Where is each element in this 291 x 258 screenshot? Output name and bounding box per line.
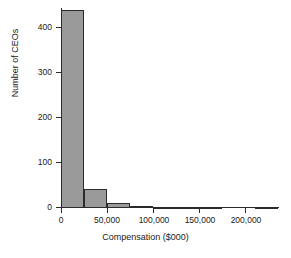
y-axis-title: Number of CEOs: [10, 3, 20, 123]
bar-bin-0: [61, 10, 84, 208]
y-tick-label-200: 200: [26, 113, 52, 122]
x-tick-label-0: 0: [41, 216, 81, 225]
x-tick-200000: [245, 208, 246, 213]
y-tick-label-100: 100: [26, 158, 52, 167]
bar-bin-9: [255, 207, 278, 209]
bar-bin-6: [199, 207, 222, 209]
y-tick-label-0: 0: [26, 203, 52, 212]
x-tick-0: [61, 208, 62, 213]
bar-bin-5: [176, 207, 199, 209]
y-tick-label-400: 400: [26, 23, 52, 32]
x-tick-label-50000: 50,000: [82, 216, 132, 225]
y-tick-label-300: 300: [26, 68, 52, 77]
bar-bin-1: [84, 189, 107, 208]
bar-bin-2: [107, 203, 130, 208]
x-axis-title: Compensation ($000): [0, 232, 291, 242]
bar-bin-3: [130, 206, 153, 208]
plot-area: 400 300 200 100 0 0 50,000 100,000 150,0…: [0, 0, 291, 258]
x-tick-100000: [153, 208, 154, 213]
x-tick-label-200000: 200,000: [218, 216, 274, 225]
x-tick-50000: [107, 208, 108, 213]
x-tick-150000: [199, 208, 200, 213]
bar-bin-4: [153, 207, 176, 209]
histogram-chart: 400 300 200 100 0 0 50,000 100,000 150,0…: [0, 0, 291, 258]
